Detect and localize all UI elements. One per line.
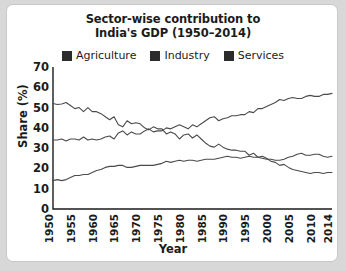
series-line-industry [53,153,332,180]
x-tick-1975: 1975 [152,214,164,243]
x-tick-1990: 1990 [217,214,229,243]
series-line-services [53,93,332,141]
x-tick-2005: 2005 [283,214,295,243]
y-tick-0: 0 [41,202,49,216]
data-series-lines [53,93,332,180]
x-tick-1960: 1960 [87,214,99,243]
x-tick-1955: 1955 [65,214,77,243]
x-tick-2000: 2000 [261,214,273,243]
x-tick-2010: 2010 [305,214,317,243]
x-tick-1965: 1965 [108,214,120,243]
y-tick-60: 60 [33,80,49,94]
y-tick-20: 20 [33,161,49,175]
y-tick-10: 10 [33,182,49,196]
x-tick-1970: 1970 [130,214,142,243]
chart-card: Sector-wise contribution to India's GDP … [6,4,338,262]
series-line-agriculture [53,103,332,174]
x-axis-tick-labels: 1950195519601965197019751980198519901995… [43,214,334,243]
y-tick-50: 50 [33,101,49,115]
y-tick-30: 30 [33,141,49,155]
y-tick-70: 70 [33,60,49,74]
x-tick-1995: 1995 [239,214,251,243]
y-tick-40: 40 [33,121,49,135]
x-tick-1980: 1980 [174,214,186,243]
x-tick-1985: 1985 [196,214,208,243]
x-tick-2014: 2014 [322,214,334,243]
chart-plot-area: 706050403020100 195019551960196519701975… [7,5,338,262]
x-tick-1950: 1950 [43,214,55,243]
y-axis-tick-labels: 706050403020100 [33,60,49,216]
